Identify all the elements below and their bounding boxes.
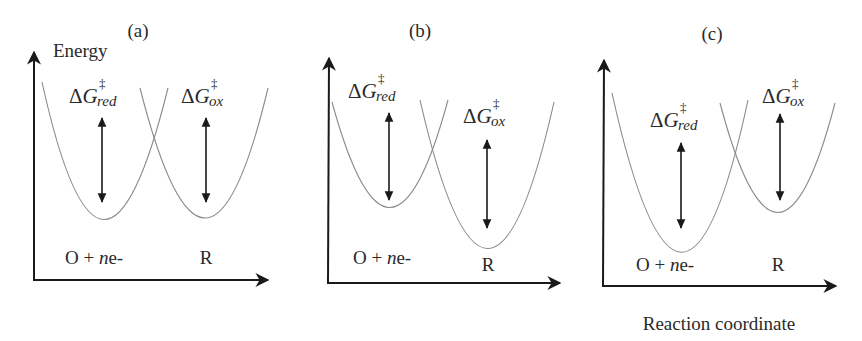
double-dagger: ‡ — [211, 76, 218, 91]
delta-g-symbol: ΔG — [463, 104, 492, 128]
svg-text:ΔG: ΔG — [463, 104, 492, 128]
reduction-barrier-label: ΔG ‡ red — [348, 71, 396, 104]
svg-text:ΔG: ΔG — [762, 84, 791, 108]
oxidation-barrier-label: ΔG ‡ ox — [762, 76, 805, 109]
panel-label: (b) — [409, 20, 431, 42]
y-axis-label: Energy — [53, 40, 108, 61]
subscript-red: red — [678, 117, 698, 133]
panel-label: (c) — [701, 23, 722, 45]
panel-b: (b) ΔG ‡ red ΔG ‡ ox O + ne- R — [327, 20, 560, 283]
reduction-barrier-label: ΔG ‡ red — [69, 76, 117, 109]
oxidation-barrier-label: ΔG ‡ ox — [181, 76, 224, 109]
oxidation-barrier-label: ΔG ‡ ox — [463, 96, 506, 129]
delta-g-symbol: ΔG — [69, 84, 98, 108]
reactant-label: O + ne- — [636, 254, 694, 275]
subscript-red: red — [97, 93, 117, 109]
delta-g-symbol: ΔG — [181, 84, 210, 108]
y-axis — [328, 58, 329, 283]
delta-g-symbol: ΔG — [650, 108, 679, 132]
svg-text:ΔG: ΔG — [650, 108, 679, 132]
svg-text:ΔG: ΔG — [348, 79, 377, 103]
x-axis-label: Reaction coordinate — [643, 313, 795, 334]
delta-g-symbol: ΔG — [348, 79, 377, 103]
reactant-label: O + ne- — [65, 247, 123, 268]
double-dagger: ‡ — [680, 100, 687, 115]
reactant-label: O + ne- — [353, 247, 411, 268]
product-label: R — [200, 247, 213, 268]
double-dagger: ‡ — [99, 76, 106, 91]
reactant-energy-curve — [332, 100, 448, 208]
subscript-ox: ox — [491, 113, 506, 129]
y-axis — [603, 60, 604, 286]
panel-label: (a) — [127, 20, 148, 42]
product-label: R — [482, 254, 495, 275]
product-label: R — [772, 254, 785, 275]
svg-text:ΔG: ΔG — [181, 84, 210, 108]
svg-text:ΔG: ΔG — [69, 84, 98, 108]
subscript-ox: ox — [790, 93, 805, 109]
panel-c: (c) ΔG ‡ red ΔG ‡ ox O + ne- R Reaction … — [602, 23, 836, 334]
subscript-red: red — [376, 88, 396, 104]
product-energy-curve — [720, 103, 835, 213]
energy-diagram-figure: (a) Energy ΔG ‡ red ΔG ‡ ox O + ne- R (b… — [0, 0, 862, 341]
double-dagger: ‡ — [493, 96, 500, 111]
double-dagger: ‡ — [792, 76, 799, 91]
delta-g-symbol: ΔG — [762, 84, 791, 108]
subscript-ox: ox — [209, 93, 224, 109]
panel-a: (a) Energy ΔG ‡ red ΔG ‡ ox O + ne- R — [33, 20, 268, 280]
reduction-barrier-label: ΔG ‡ red — [650, 100, 698, 133]
double-dagger: ‡ — [378, 71, 385, 86]
